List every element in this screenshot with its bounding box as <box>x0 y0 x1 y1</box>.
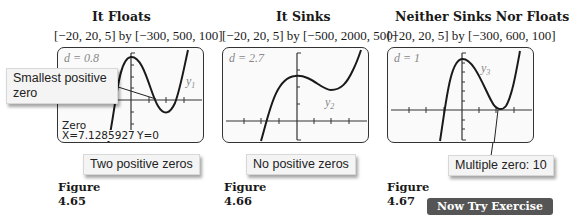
callout-multiple-zero: Multiple zero: 10 <box>448 155 554 176</box>
panel-title: It Sinks <box>276 9 331 24</box>
calc-zero-x: X=7.1285927 <box>62 130 135 141</box>
window-settings: [−20, 20, 5] by [−500, 2000, 500] <box>222 28 397 44</box>
panel-title: Neither Sinks Nor Floats <box>395 9 569 24</box>
callout-leader-line <box>489 142 495 156</box>
panel-title: It Floats <box>92 9 151 24</box>
figure-caption: Figure 4.66 <box>224 180 266 208</box>
curve-label-y1: y1 <box>186 74 195 90</box>
window-settings: [−20, 20, 5] by [−300, 600, 100] <box>387 28 555 44</box>
now-try-exercise-button[interactable]: Now Try Exercise 111 <box>427 198 553 215</box>
d-label: d = 1 <box>394 51 420 66</box>
callout-smallest-positive-zero: Smallest positive zero <box>6 68 118 104</box>
callout-two-positive-zeros: Two positive zeros <box>83 154 200 175</box>
curve-label-y2: y2 <box>325 95 334 111</box>
curve-label-y3: y3 <box>481 61 490 77</box>
calculator-screen: d = 2.7 y2 <box>222 47 369 143</box>
d-label: d = 2.7 <box>229 51 264 66</box>
figure-caption: Figure 4.65 <box>58 180 100 208</box>
window-settings: [−20, 20, 5] by [−300, 500, 100] <box>54 28 222 44</box>
figure-caption: Figure 4.67 <box>387 180 429 208</box>
d-label: d = 0.8 <box>64 51 99 66</box>
calc-zero-y: Y=0 <box>137 130 159 141</box>
calculator-screen: d = 1 y3 <box>387 47 534 143</box>
callout-no-positive-zeros: No positive zeros <box>246 154 356 175</box>
